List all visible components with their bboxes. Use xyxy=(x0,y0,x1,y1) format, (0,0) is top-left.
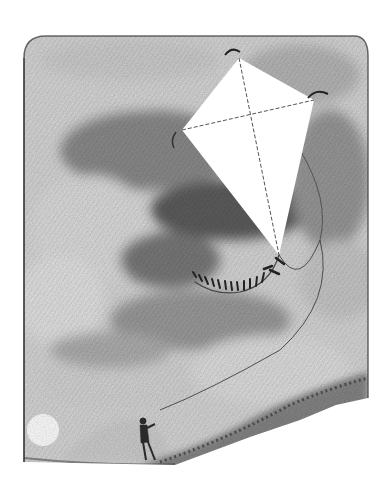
scene xyxy=(0,0,390,499)
pencil-drawing xyxy=(0,0,390,499)
child-head xyxy=(140,418,146,424)
illustration: Pencil illustration of a large white kit… xyxy=(0,0,390,499)
pencil-hatching xyxy=(0,0,390,499)
sun xyxy=(27,414,59,446)
